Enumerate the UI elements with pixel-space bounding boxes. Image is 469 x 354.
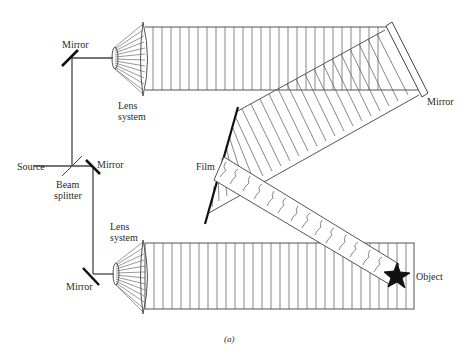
label-mirror-bottom-left: Mirror: [66, 281, 93, 292]
figure-caption: (a): [224, 334, 235, 345]
label-source: Source: [17, 161, 45, 172]
mirror-right-icon: [386, 22, 428, 97]
object-wave-beam: [214, 157, 399, 284]
label-mirror-top-left: Mirror: [62, 39, 89, 50]
label-beam-splitter-2: splitter: [54, 190, 82, 201]
label-lens-system-bottom-2: system: [110, 232, 138, 243]
label-film: Film: [196, 161, 215, 172]
label-mirror-right: Mirror: [427, 96, 454, 107]
holography-diagram: [0, 0, 469, 354]
lens-system-bottom: [113, 240, 148, 314]
label-lens-system-bottom-1: Lens: [110, 221, 129, 232]
label-mirror-middle: Mirror: [97, 159, 124, 170]
label-lens-system-top-1: Lens: [118, 100, 137, 111]
label-beam-splitter-1: Beam: [56, 179, 79, 190]
label-lens-system-top-2: system: [118, 111, 146, 122]
lens-system-top: [112, 22, 148, 96]
label-object: Object: [416, 271, 443, 282]
reference-beam: [145, 27, 421, 90]
